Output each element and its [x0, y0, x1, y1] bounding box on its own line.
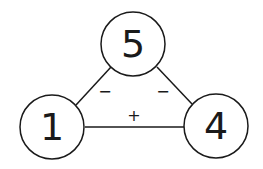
- node-left: 1: [20, 95, 84, 159]
- node-left-label: 1: [40, 105, 64, 149]
- node-top-label: 5: [121, 22, 145, 66]
- sign-top-right: −: [156, 82, 169, 101]
- node-right: 4: [184, 94, 248, 158]
- number-triangle-diagram: − − + 5 1 4: [0, 0, 263, 169]
- node-right-label: 4: [204, 104, 228, 148]
- sign-top-left: −: [98, 82, 111, 101]
- sign-left-right: +: [127, 106, 140, 125]
- node-top: 5: [101, 12, 165, 76]
